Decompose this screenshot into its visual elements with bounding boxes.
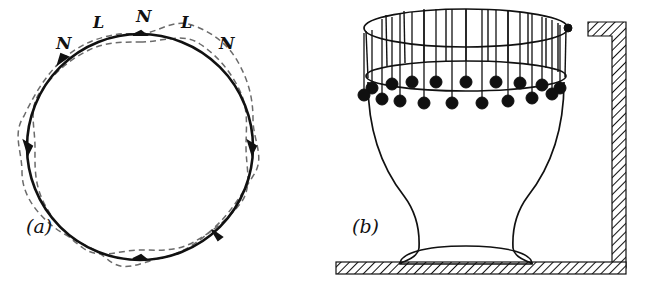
label-loop-right: L: [180, 13, 192, 32]
caption-panel-b: (b): [352, 215, 379, 237]
diagram-canvas: N L N L N (a): [0, 0, 668, 296]
label-node-top: N: [135, 6, 153, 26]
caption-panel-a: (a): [26, 215, 52, 237]
figure-sheet: N L N L N (a): [0, 0, 668, 296]
label-node-right: N: [218, 33, 236, 53]
label-loop-left: L: [92, 13, 104, 32]
wall-attachment-point: [564, 24, 572, 32]
label-node-left: N: [55, 33, 73, 53]
